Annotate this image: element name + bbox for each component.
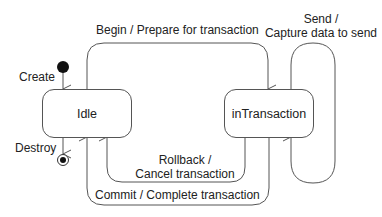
rollback-label-line2: Cancel transaction [125, 167, 245, 181]
state-in-transaction-label: inTransaction [232, 107, 307, 121]
state-idle-label: Idle [77, 107, 97, 121]
send-label: Send / Capture data to send [260, 12, 382, 40]
begin-transition-arrow [87, 43, 268, 89]
send-label-line2: Capture data to send [260, 26, 382, 40]
initial-node-icon [57, 61, 69, 73]
create-label: Create [19, 70, 55, 84]
destroy-label: Destroy [15, 141, 56, 155]
state-idle[interactable]: Idle [42, 89, 132, 138]
state-in-transaction[interactable]: inTransaction [224, 89, 314, 138]
final-node-icon [58, 155, 69, 166]
commit-label: Commit / Complete transaction [95, 188, 260, 202]
rollback-label: Rollback / Cancel transaction [125, 153, 245, 181]
begin-label: Begin / Prepare for transaction [96, 23, 259, 37]
send-label-line1: Send / [260, 12, 382, 26]
rollback-label-line1: Rollback / [125, 153, 245, 167]
